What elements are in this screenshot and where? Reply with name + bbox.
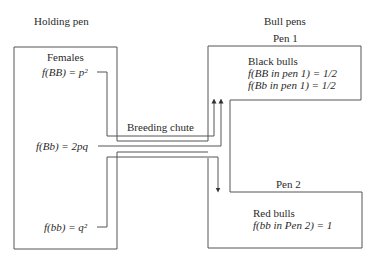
pen1-title: Pen 1 [273,32,298,44]
pen2-title: Pen 2 [276,178,301,190]
bull-pens-header: Bull pens [264,15,306,27]
genotype-bb-dominant: f(BB) = p² [42,66,88,78]
recessive-path [97,152,200,227]
pen2-freq-bb: f(bb in Pen 2) = 1 [253,219,332,231]
pen2-group-label: Red bulls [253,207,295,219]
genotype-bb-heterozygous: f(Bb) = 2pq [36,140,88,152]
pen1-freq-bb: f(BB in pen 1) = 1/2 [248,67,337,79]
pen1-group-label: Black bulls [248,55,298,67]
pen1-freq-bb-het: f(Bb in pen 1) = 1/2 [248,79,336,91]
females-label: Females [47,51,84,63]
recessive-path-visible [97,157,218,227]
breeding-chute-label: Breeding chute [127,121,194,133]
genotype-bb-recessive: f(bb) = q² [44,221,87,233]
holding-pen-header: Holding pen [34,15,89,27]
